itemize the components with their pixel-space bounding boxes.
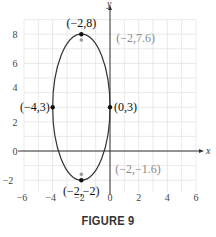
focus-point bbox=[80, 38, 84, 42]
y-tick-label: 6 bbox=[13, 58, 18, 69]
focus-label: (−2,−1.6) bbox=[115, 162, 161, 176]
focus-label: (−2,7.6) bbox=[116, 31, 155, 45]
x-tick-label: 4 bbox=[165, 192, 170, 203]
point-label: (0,3) bbox=[114, 100, 137, 114]
point-label: (−2,8) bbox=[66, 16, 96, 30]
tick-labels: −6−4−2024686420−2 bbox=[3, 29, 199, 203]
focus-point bbox=[80, 173, 84, 177]
point-label: (−2,−2) bbox=[63, 184, 100, 198]
x-axis-label: x bbox=[205, 145, 211, 156]
ellipse-chart: xy −6−4−2024686420−2 (−2,8)(−4,3)(0,3)(−… bbox=[0, 0, 216, 237]
vertex-point bbox=[50, 105, 54, 109]
x-tick-label: −6 bbox=[17, 192, 28, 203]
x-tick-label: 6 bbox=[193, 192, 198, 203]
x-axis-arrow-icon bbox=[199, 149, 204, 153]
y-tick-label: 0 bbox=[13, 146, 18, 157]
y-tick-label: 8 bbox=[13, 29, 18, 40]
figure-caption: FIGURE 9 bbox=[16, 213, 200, 228]
y-tick-label: −2 bbox=[3, 175, 14, 186]
x-tick-label: 2 bbox=[136, 192, 141, 203]
x-tick-label: −4 bbox=[45, 192, 56, 203]
vertex-point bbox=[79, 178, 83, 182]
point-label: (−4,3) bbox=[20, 100, 50, 114]
y-tick-label: 4 bbox=[13, 82, 18, 93]
y-tick-label: 2 bbox=[13, 117, 18, 128]
vertex-point bbox=[79, 32, 83, 36]
y-axis-label: y bbox=[106, 0, 112, 9]
vertex-point bbox=[108, 105, 112, 109]
x-tick-label: 0 bbox=[108, 192, 113, 203]
